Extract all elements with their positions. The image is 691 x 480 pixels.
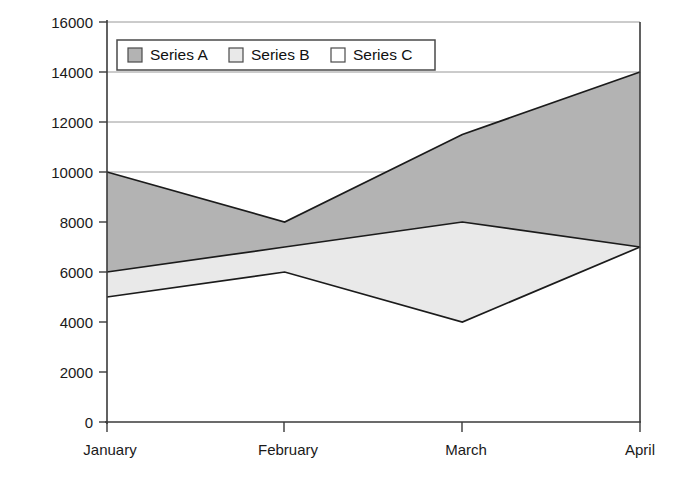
legend-swatch-series-b[interactable] [229,48,243,62]
stacked-area-chart: 16000 14000 12000 10000 8000 6000 4000 2… [0,0,691,480]
ytick-label-10000: 10000 [51,164,93,181]
xtick-label-april: April [625,441,655,458]
y-tickmarks [99,22,107,422]
chart-container: 16000 14000 12000 10000 8000 6000 4000 2… [0,0,691,480]
y-axis-labels: 16000 14000 12000 10000 8000 6000 4000 2… [51,14,93,431]
ytick-label-2000: 2000 [60,364,93,381]
ytick-label-8000: 8000 [60,214,93,231]
chart-legend: Series A Series B Series C [117,40,435,70]
legend-swatch-series-a[interactable] [128,48,142,62]
ytick-label-6000: 6000 [60,264,93,281]
xtick-label-march: March [445,441,487,458]
xtick-label-january: January [83,441,137,458]
ytick-label-14000: 14000 [51,64,93,81]
ytick-label-0: 0 [85,414,93,431]
ytick-label-12000: 12000 [51,114,93,131]
legend-label-series-c[interactable]: Series C [353,46,412,63]
xtick-label-february: February [258,441,319,458]
x-axis-labels: January February March April [83,441,655,458]
legend-swatch-series-c[interactable] [331,48,345,62]
ytick-label-4000: 4000 [60,314,93,331]
x-tickmarks [107,422,640,432]
ytick-label-16000: 16000 [51,14,93,31]
legend-label-series-a[interactable]: Series A [150,46,208,63]
legend-label-series-b[interactable]: Series B [251,46,310,63]
